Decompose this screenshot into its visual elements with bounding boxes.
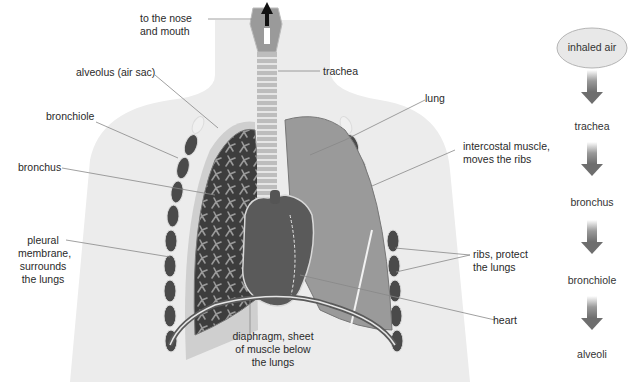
anatomy-illustration bbox=[0, 0, 637, 382]
label-line: intercostal muscle, bbox=[463, 140, 550, 153]
label-line: to the nose bbox=[140, 12, 192, 25]
label-line: the lungs bbox=[473, 261, 528, 274]
label-line: ribs, protect bbox=[473, 248, 528, 261]
flow-arrow-3 bbox=[581, 220, 603, 254]
label-ribs: ribs, protect the lungs bbox=[473, 248, 528, 274]
label-line: and mouth bbox=[140, 25, 192, 38]
flow-step-bronchiole: bronchiole bbox=[552, 274, 632, 286]
label-heart: heart bbox=[493, 314, 517, 327]
flow-arrow-1 bbox=[581, 70, 603, 104]
label-lung: lung bbox=[425, 92, 445, 105]
label-line: diaphragm, sheet bbox=[228, 330, 318, 343]
label-diaphragm: diaphragm, sheet of muscle below the lun… bbox=[228, 330, 318, 369]
label-line: the lungs bbox=[228, 356, 318, 369]
label-line: moves the ribs bbox=[463, 153, 550, 166]
label-line: surrounds bbox=[18, 260, 68, 273]
label-line: membrane, bbox=[18, 247, 68, 260]
flow-step-alveoli: alveoli bbox=[552, 348, 632, 360]
label-bronchiole: bronchiole bbox=[46, 110, 94, 123]
label-intercostal: intercostal muscle, moves the ribs bbox=[463, 140, 550, 166]
flow-arrow-2 bbox=[581, 142, 603, 176]
flow-arrow-4 bbox=[581, 296, 603, 330]
label-line: pleural bbox=[18, 234, 68, 247]
label-pleural: pleural membrane, surrounds the lungs bbox=[18, 234, 68, 286]
label-line: the lungs bbox=[18, 273, 68, 286]
respiratory-diagram: to the nose and mouth trachea alveolus (… bbox=[0, 0, 637, 382]
flow-step-trachea: trachea bbox=[552, 120, 632, 132]
flow-start: inhaled air bbox=[552, 41, 632, 53]
flow-step-bronchus: bronchus bbox=[552, 196, 632, 208]
label-nose-mouth: to the nose and mouth bbox=[140, 12, 192, 38]
label-line: of muscle below bbox=[228, 343, 318, 356]
label-alveolus: alveolus (air sac) bbox=[76, 66, 155, 79]
label-bronchus: bronchus bbox=[18, 161, 61, 174]
label-trachea: trachea bbox=[323, 65, 358, 78]
